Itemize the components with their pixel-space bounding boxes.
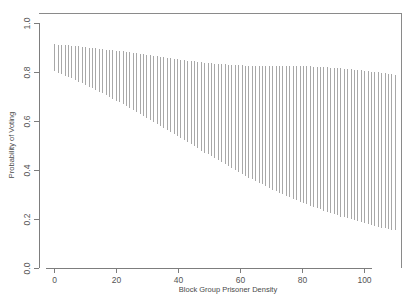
x-axis-title: Block Group Prisoner Density: [179, 285, 278, 294]
x-tick-label: 20: [112, 275, 122, 285]
x-tick-label: 40: [174, 275, 184, 285]
chart-figure: 020406080100 0.00.20.40.60.81.0 Block Gr…: [0, 0, 416, 306]
plot-frame: [39, 13, 401, 268]
x-tick-label: 0: [52, 275, 57, 285]
plot-canvas: 020406080100 0.00.20.40.60.81.0 Block Gr…: [0, 0, 416, 306]
y-tick-label: 0.2: [22, 213, 32, 225]
axes: [39, 23, 372, 268]
x-tick-label: 60: [236, 275, 246, 285]
y-tick-label: 1.0: [22, 17, 32, 29]
y-tick-label: 0.6: [22, 115, 32, 127]
y-tick-label: 0.8: [22, 66, 32, 78]
x-axis-ticks: 020406080100: [52, 268, 372, 285]
y-tick-label: 0.0: [22, 262, 32, 274]
y-axis-title: Probability of Voting: [7, 112, 16, 178]
confidence-interval-bars: [55, 44, 396, 230]
x-tick-label: 100: [357, 275, 371, 285]
y-axis-ticks: 0.00.20.40.60.81.0: [22, 17, 39, 274]
x-tick-label: 80: [298, 275, 308, 285]
y-tick-label: 0.4: [22, 164, 32, 176]
